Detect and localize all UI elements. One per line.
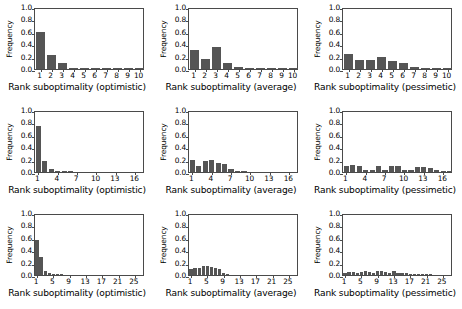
bar bbox=[388, 273, 391, 275]
y-tick-label: 0.0 bbox=[21, 272, 32, 279]
bar bbox=[425, 274, 428, 275]
bar bbox=[206, 266, 209, 275]
figure-grid: Frequency0.00.20.40.60.81.012345678910Ra… bbox=[0, 0, 462, 309]
bar bbox=[400, 273, 403, 275]
y-tick-label: 0.0 bbox=[21, 169, 32, 176]
y-tick-label: 0.4 bbox=[21, 144, 32, 151]
x-axis-ticks: 12345678910 bbox=[188, 71, 298, 81]
bar bbox=[218, 269, 221, 275]
x-axis-label: Rank suboptimality (average) bbox=[154, 82, 308, 92]
y-tick-label: 0.8 bbox=[175, 17, 186, 24]
x-tick-label: 1 bbox=[34, 277, 39, 286]
x-tick-label: 25 bbox=[129, 277, 138, 286]
y-tick-label: 1.0 bbox=[329, 107, 340, 114]
x-tick-label: 8 bbox=[422, 71, 427, 80]
bar bbox=[392, 271, 395, 275]
x-tick-label: 1 bbox=[343, 174, 348, 183]
x-axis-ticks: 147101316 bbox=[188, 174, 298, 184]
x-tick-label: 7 bbox=[103, 71, 108, 80]
bar bbox=[202, 266, 205, 275]
y-tick-label: 0.2 bbox=[21, 157, 32, 164]
x-tick-label: 5 bbox=[81, 71, 86, 80]
x-tick-label: 7 bbox=[382, 174, 387, 183]
bar bbox=[344, 166, 349, 172]
bar bbox=[55, 171, 60, 172]
bar bbox=[344, 54, 353, 69]
y-tick-label: 0.0 bbox=[175, 169, 186, 176]
y-tick-label: 0.6 bbox=[329, 29, 340, 36]
x-tick-label: 21 bbox=[267, 277, 276, 286]
x-tick-label: 9 bbox=[433, 71, 438, 80]
bar bbox=[245, 68, 254, 69]
bar bbox=[377, 57, 386, 69]
bar bbox=[228, 169, 233, 172]
x-tick-label: 10 bbox=[245, 174, 254, 183]
chart-panel-row1-col3: Frequency0.00.20.40.60.81.012345678910Ra… bbox=[308, 0, 462, 103]
x-axis-ticks: 15913172125 bbox=[34, 277, 144, 287]
bar bbox=[49, 169, 54, 172]
bar bbox=[434, 170, 439, 172]
y-tick-label: 0.4 bbox=[21, 247, 32, 254]
y-tick-label: 0.8 bbox=[329, 17, 340, 24]
bar bbox=[405, 273, 408, 275]
y-tick-label: 0.8 bbox=[21, 223, 32, 230]
bar bbox=[343, 273, 346, 275]
x-axis-ticks: 147101316 bbox=[34, 174, 144, 184]
x-tick-label: 4 bbox=[70, 71, 75, 80]
bar bbox=[395, 166, 400, 172]
y-axis-ticks: 0.00.20.40.60.81.0 bbox=[320, 111, 341, 173]
bar bbox=[376, 271, 379, 275]
x-tick-label: 5 bbox=[204, 277, 209, 286]
chart-panel-row3-col3: Frequency0.00.20.40.60.81.015913172125Ra… bbox=[308, 206, 462, 309]
y-tick-label: 0.6 bbox=[329, 132, 340, 139]
bar bbox=[355, 60, 364, 69]
x-tick-label: 5 bbox=[50, 277, 55, 286]
x-tick-label: 7 bbox=[74, 174, 79, 183]
plot-area bbox=[34, 111, 144, 173]
x-tick-label: 1 bbox=[37, 71, 42, 80]
x-tick-label: 1 bbox=[191, 71, 196, 80]
bars-container bbox=[35, 215, 143, 275]
y-axis-ticks: 0.00.20.40.60.81.0 bbox=[320, 8, 341, 70]
x-tick-label: 8 bbox=[268, 71, 273, 80]
bar bbox=[222, 164, 227, 172]
bar bbox=[212, 47, 221, 69]
x-tick-label: 13 bbox=[234, 277, 243, 286]
bar bbox=[36, 126, 41, 173]
x-tick-label: 3 bbox=[213, 71, 218, 80]
x-tick-label: 13 bbox=[418, 174, 427, 183]
bar bbox=[402, 170, 407, 172]
y-tick-label: 0.6 bbox=[175, 235, 186, 242]
bar bbox=[389, 166, 394, 172]
y-tick-label: 0.2 bbox=[21, 54, 32, 61]
x-axis-label: Rank suboptimality (average) bbox=[154, 288, 308, 298]
bar bbox=[441, 171, 446, 172]
x-tick-label: 3 bbox=[367, 71, 372, 80]
bar bbox=[356, 273, 359, 275]
bar bbox=[432, 68, 441, 69]
x-tick-label: 9 bbox=[374, 277, 379, 286]
x-tick-label: 25 bbox=[283, 277, 292, 286]
x-tick-label: 17 bbox=[405, 277, 414, 286]
x-tick-label: 16 bbox=[438, 174, 447, 183]
y-tick-label: 0.4 bbox=[175, 41, 186, 48]
bar bbox=[421, 68, 430, 69]
bar bbox=[56, 274, 59, 275]
chart-panel-row2-col3: Frequency0.00.20.40.60.81.0147101316Rank… bbox=[308, 103, 462, 206]
x-tick-label: 8 bbox=[114, 71, 119, 80]
bar bbox=[278, 68, 287, 69]
chart-panel-row3-col2: Frequency0.00.20.40.60.81.015913172125Ra… bbox=[154, 206, 308, 309]
bar bbox=[350, 165, 355, 172]
bar bbox=[69, 68, 78, 69]
bar bbox=[380, 271, 383, 275]
x-tick-label: 4 bbox=[224, 71, 229, 80]
bar bbox=[135, 68, 144, 69]
bar bbox=[409, 274, 412, 275]
y-tick-label: 0.2 bbox=[329, 54, 340, 61]
x-axis-label: Rank suboptimality (average) bbox=[154, 185, 308, 195]
bar bbox=[124, 68, 133, 69]
x-tick-label: 5 bbox=[389, 71, 394, 80]
bar bbox=[267, 68, 276, 69]
y-tick-label: 0.6 bbox=[21, 29, 32, 36]
bar bbox=[190, 160, 195, 172]
